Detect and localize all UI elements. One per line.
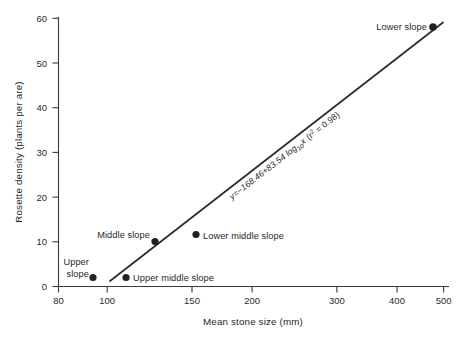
y-tick-label-50: 50 — [36, 58, 47, 69]
x-tick-label-400: 400 — [389, 295, 405, 306]
x-ticks-group: 80 100 150 200 300 400 500 — [53, 287, 451, 307]
point-label-upper-slope-line1: Upper — [63, 257, 89, 267]
x-tick-label-100: 100 — [99, 295, 115, 306]
y-axis-title: Rosette density (plants per are) — [13, 81, 24, 222]
axes-group — [59, 17, 450, 287]
point-label-upper-slope-line2: slope — [67, 269, 89, 279]
y-tick-label-20: 20 — [36, 192, 47, 203]
data-point — [151, 238, 158, 245]
regression-equation-group: y=−168.46+83.54 log10x(r2 = 0.98) — [226, 109, 343, 204]
y-ticks-group: 0 10 20 30 40 50 60 — [36, 13, 58, 292]
y-tick-label-30: 30 — [36, 147, 47, 158]
equation-lead: y=−168.46+83.54 log — [226, 143, 299, 202]
x-axis-title: Mean stone size (mm) — [203, 316, 303, 327]
regression-fit-line — [110, 23, 443, 282]
caption-partial — [18, 334, 258, 343]
x-tick-label-80: 80 — [53, 295, 64, 306]
regression-equation-text: y=−168.46+83.54 log10x(r2 = 0.98) — [226, 109, 343, 204]
plot-canvas: 0 10 20 30 40 50 60 80 100 150 200 300 4… — [0, 0, 467, 344]
point-label-middle-slope: Middle slope — [97, 230, 150, 240]
point-label-lower-slope: Lower slope — [376, 22, 427, 32]
y-tick-label-60: 60 — [36, 13, 47, 24]
data-points-group — [89, 23, 436, 281]
y-tick-label-40: 40 — [36, 102, 47, 113]
x-tick-label-500: 500 — [436, 295, 452, 306]
figure-scatter-plot: 0 10 20 30 40 50 60 80 100 150 200 300 4… — [0, 0, 467, 344]
point-label-lower-middle-slope: Lower middle slope — [203, 231, 284, 241]
data-point — [122, 274, 129, 281]
data-point — [89, 274, 96, 281]
data-point — [429, 23, 437, 31]
x-tick-label-300: 300 — [329, 295, 345, 306]
y-tick-label-10: 10 — [36, 236, 47, 247]
x-tick-label-200: 200 — [244, 295, 260, 306]
y-tick-label-0: 0 — [42, 281, 47, 292]
point-label-upper-middle-slope: Upper middle slope — [133, 273, 214, 283]
x-tick-label-150: 150 — [184, 295, 200, 306]
data-point — [192, 231, 199, 238]
